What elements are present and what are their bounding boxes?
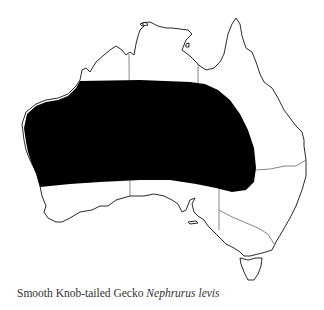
border-nsw-vic [219, 210, 274, 244]
tasmania-coastline [240, 258, 262, 280]
common-name: Smooth Knob-tailed Gecko [17, 287, 143, 299]
australia-distribution-map [0, 0, 324, 310]
map-caption: Smooth Knob-tailed Gecko Nephrurus levis [17, 287, 220, 299]
groote-island [186, 43, 189, 47]
kangaroo-island [188, 221, 198, 224]
species-range [24, 80, 256, 192]
melville-island [140, 22, 148, 26]
scientific-name: Nephrurus levis [146, 287, 219, 299]
border-qld-nsw [255, 160, 306, 170]
